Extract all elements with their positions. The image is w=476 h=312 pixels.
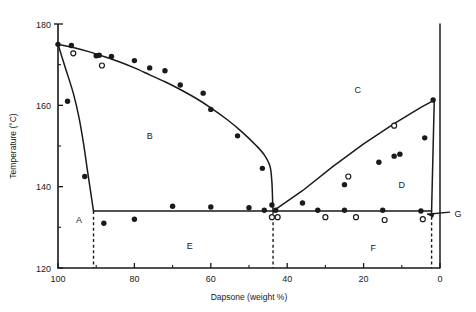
x-tick-label: 40	[282, 274, 292, 284]
data-point-filled	[55, 42, 60, 47]
data-point-open	[269, 215, 274, 220]
data-point-filled	[300, 200, 305, 205]
data-point-filled	[269, 202, 274, 207]
data-point-filled	[82, 174, 87, 179]
y-tick-label: 140	[36, 182, 51, 192]
y-axis-title: Temperature (°C)	[8, 113, 18, 178]
data-point-filled	[200, 90, 205, 95]
y-tick-label: 180	[36, 20, 51, 30]
data-point-filled	[69, 43, 74, 48]
data-point-filled	[235, 133, 240, 138]
data-point-filled	[65, 99, 70, 104]
data-point-open	[99, 63, 104, 68]
data-point-open	[275, 215, 280, 220]
data-point-filled	[422, 135, 427, 140]
curve-left-solidus	[58, 44, 94, 211]
data-point-open	[392, 123, 397, 128]
data-point-open	[346, 174, 351, 179]
curve-right-liquidus	[273, 100, 434, 211]
data-point-filled	[342, 208, 347, 213]
region-label-G: G	[454, 209, 461, 219]
data-point-filled	[376, 160, 381, 165]
data-point-filled	[147, 65, 152, 70]
data-point-open	[382, 218, 387, 223]
data-point-filled	[162, 68, 167, 73]
x-tick-label: 60	[206, 274, 216, 284]
data-point-filled	[260, 166, 265, 171]
region-label-E: E	[187, 241, 193, 251]
data-point-filled	[109, 54, 114, 59]
data-point-filled	[97, 53, 102, 58]
data-point-filled	[208, 107, 213, 112]
data-point-filled	[418, 208, 423, 213]
data-point-open	[71, 51, 76, 56]
curve-right-steep-solidus	[432, 100, 435, 211]
data-point-filled	[208, 204, 213, 209]
data-point-open	[420, 217, 425, 222]
data-point-filled	[170, 203, 175, 208]
phase-diagram-figure: 100806040200120140160180Dapsone (weight …	[0, 0, 476, 312]
region-label-D: D	[399, 180, 406, 190]
x-tick-label: 100	[50, 274, 65, 284]
x-axis-title: Dapsone (weight %)	[211, 292, 288, 302]
data-point-filled	[262, 208, 267, 213]
x-tick-label: 0	[437, 274, 442, 284]
data-point-filled	[430, 97, 435, 102]
x-tick-label: 80	[129, 274, 139, 284]
data-point-filled	[132, 217, 137, 222]
region-label-C: C	[355, 85, 362, 95]
data-point-filled	[101, 221, 106, 226]
y-tick-label: 160	[36, 101, 51, 111]
data-point-filled	[380, 208, 385, 213]
data-point-filled	[132, 58, 137, 63]
region-label-F: F	[370, 243, 376, 253]
data-point-filled	[397, 151, 402, 156]
data-point-open	[353, 215, 358, 220]
data-point-filled	[273, 208, 278, 213]
phase-diagram-svg: 100806040200120140160180Dapsone (weight …	[0, 0, 476, 312]
data-point-filled	[315, 208, 320, 213]
data-point-filled	[178, 82, 183, 87]
data-point-open	[323, 215, 328, 220]
y-tick-label: 120	[36, 264, 51, 274]
data-point-filled	[391, 153, 396, 158]
region-label-A: A	[76, 215, 82, 225]
x-tick-label: 20	[359, 274, 369, 284]
region-label-B: B	[147, 131, 153, 141]
data-point-filled	[342, 182, 347, 187]
data-point-filled	[246, 205, 251, 210]
